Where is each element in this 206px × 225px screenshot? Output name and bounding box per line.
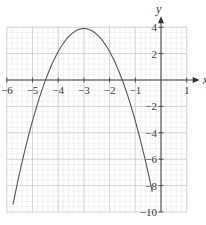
x-tick-label: 1 — [184, 84, 190, 96]
y-tick-label: 4 — [152, 21, 158, 33]
major-grid — [7, 27, 187, 212]
x-tick-label: −3 — [78, 84, 90, 96]
x-tick-label: −4 — [52, 84, 64, 96]
y-tick-label: −2 — [145, 100, 157, 112]
parabola-chart: −6−5−4−3−2−1142−2−4−6−8−10 x y — [0, 0, 206, 225]
y-tick-label: −4 — [145, 127, 157, 139]
y-tick-label: −10 — [140, 206, 158, 218]
x-tick-label: −6 — [1, 84, 13, 96]
y-tick-label: 2 — [152, 48, 158, 60]
x-tick-label: −1 — [129, 84, 141, 96]
x-tick-label: −2 — [104, 84, 116, 96]
axes — [7, 16, 200, 212]
x-tick-label: −5 — [27, 84, 39, 96]
y-tick-label: −6 — [145, 153, 157, 165]
x-axis-arrow-icon — [193, 77, 200, 83]
x-axis-label: x — [202, 73, 206, 87]
y-axis-arrow-icon — [158, 16, 164, 23]
y-axis-label: y — [155, 2, 162, 16]
minor-grid — [7, 27, 187, 212]
parabola-curve — [13, 29, 152, 205]
